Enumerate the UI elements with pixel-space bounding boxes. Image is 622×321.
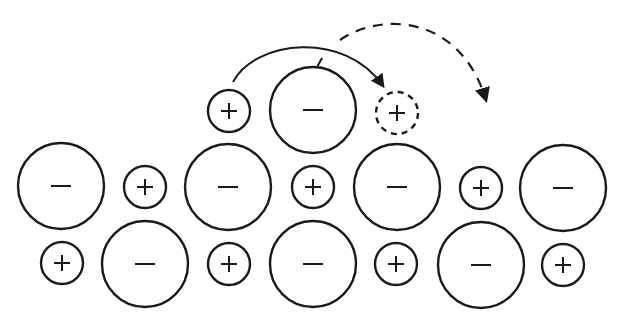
anion-ion [354,144,440,230]
cation-ion [208,243,250,285]
ion-lattice-diagram [0,0,622,321]
dashed-hop-arrow [340,24,486,100]
cation-ion [542,244,584,286]
anion-ion [102,221,188,307]
dashed-cation-ion [376,92,418,134]
anion-ion [185,144,271,230]
ions-layer [18,67,606,308]
cation-ion [208,90,250,132]
cation-ion [375,243,417,285]
cation-ion [124,166,166,208]
anion-ion [18,143,104,229]
anion-ion [520,145,606,231]
anion-ion [270,221,356,307]
cation-ion [41,242,83,284]
anion-ion [438,222,524,308]
cation-ion [292,166,334,208]
cation-ion [460,167,502,209]
anion-ion [270,67,356,153]
